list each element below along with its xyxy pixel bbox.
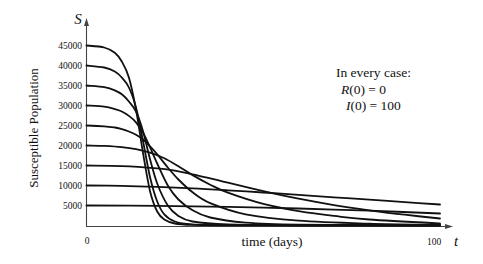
y-axis-symbol: S xyxy=(74,11,82,27)
annotation-i0-text: (0) = 100 xyxy=(351,98,402,113)
annotation-r0: R(0) = 0 xyxy=(340,82,386,97)
y-tick-45000: 45000 xyxy=(58,41,82,51)
annotation-box: In every case: R(0) = 0 I(0) = 100 xyxy=(336,65,411,113)
annotation-title: In every case: xyxy=(336,65,411,80)
series-line-025000 xyxy=(87,126,441,225)
y-axis-arrow-icon xyxy=(84,18,89,26)
annotation-i0: I(0) = 100 xyxy=(345,98,401,113)
annotation-r0-text: (0) = 0 xyxy=(349,82,386,97)
y-tick-15000: 15000 xyxy=(58,161,82,171)
x-tick-100: 100 xyxy=(427,237,442,247)
x-axis-arrow-icon xyxy=(445,224,453,229)
y-tick-30000: 30000 xyxy=(58,101,82,111)
x-axis-label: time (days) xyxy=(241,234,302,249)
series-line-010000 xyxy=(87,186,441,205)
y-axis-label: Susceptible Population xyxy=(26,68,41,188)
y-tick-40000: 40000 xyxy=(58,61,82,71)
y-tick-labels: 5000100001500020000250003000035000400004… xyxy=(58,41,82,211)
y-tick-25000: 25000 xyxy=(58,121,82,131)
x-tick-0: 0 xyxy=(85,236,90,246)
y-tick-10000: 10000 xyxy=(58,181,82,191)
sir-susceptible-chart: Susceptible Population S t 5000100001500… xyxy=(0,0,483,264)
y-tick-5000: 5000 xyxy=(63,201,82,211)
x-axis-symbol: t xyxy=(454,233,459,249)
y-tick-35000: 35000 xyxy=(58,81,82,91)
y-tick-20000: 20000 xyxy=(58,141,82,151)
